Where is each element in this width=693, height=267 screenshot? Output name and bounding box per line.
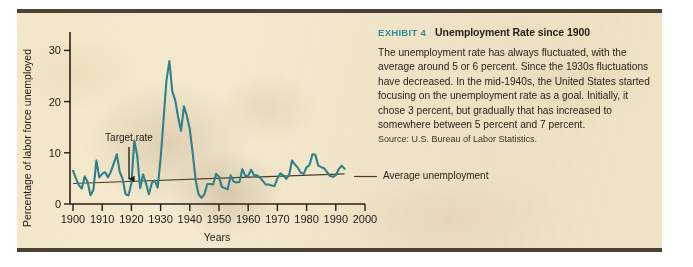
x-tick-label-1960: 1960 — [236, 213, 260, 225]
x-tick-label-1940: 1940 — [178, 213, 202, 225]
x-axis-ticks — [73, 204, 365, 211]
x-axis-title: Years — [204, 231, 230, 243]
x-tick-label-1930: 1930 — [148, 213, 172, 225]
x-tick-label-2000: 2000 — [353, 213, 377, 225]
x-tick-label-1980: 1980 — [294, 213, 318, 225]
exhibit-text-block: EXHIBIT 4 Unemployment Rate since 1900 T… — [378, 26, 663, 146]
y-tick-label-10: 10 — [49, 147, 61, 159]
exhibit-panel: Percentage of labor force unemployed 0 1… — [17, 9, 662, 252]
x-tick-label-1990: 1990 — [324, 213, 348, 225]
x-tick-label-1950: 1950 — [207, 213, 231, 225]
y-tick-label-20: 20 — [49, 96, 61, 108]
y-axis-ticks — [64, 50, 70, 204]
x-tick-label-1900: 1900 — [61, 213, 85, 225]
exhibit-heading: EXHIBIT 4 Unemployment Rate since 1900 — [378, 26, 663, 38]
exhibit-number-label: EXHIBIT 4 — [378, 27, 426, 38]
x-tick-label-1910: 1910 — [90, 213, 114, 225]
target-rate-label: Target rate — [105, 132, 153, 143]
x-tick-label-1970: 1970 — [265, 213, 289, 225]
chart-svg: Percentage of labor force unemployed 0 1… — [17, 13, 377, 252]
unemployment-chart: Percentage of labor force unemployed 0 1… — [17, 13, 377, 252]
average-unemployment-caption: Average unemployment — [383, 170, 488, 181]
average-unemployment-line — [73, 174, 345, 184]
y-tick-label-0: 0 — [55, 198, 61, 210]
x-tick-label-1920: 1920 — [119, 213, 143, 225]
exhibit-title: Unemployment Rate since 1900 — [435, 26, 590, 38]
y-tick-label-30: 30 — [49, 44, 61, 56]
unemployment-rate-line — [73, 61, 345, 198]
y-axis-title: Percentage of labor force unemployed — [21, 49, 33, 227]
exhibit-description: The unemployment rate has always fluctua… — [378, 46, 650, 132]
exhibit-source: Source: U.S. Bureau of Labor Statistics. — [378, 133, 663, 146]
